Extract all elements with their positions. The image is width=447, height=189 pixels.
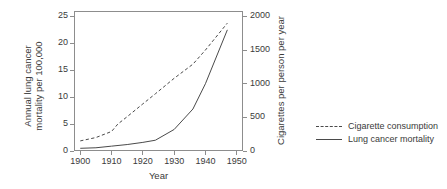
y-tick-mark-right <box>243 16 247 17</box>
series-line-lung-cancer-mortality <box>80 30 227 148</box>
x-tick-mark <box>236 151 237 155</box>
y-tick-mark-left <box>70 43 74 44</box>
legend-item-cigarette-consumption: Cigarette consumption <box>316 120 446 133</box>
y-axis-title-left-line2: mortality per 100,000 <box>33 16 44 156</box>
chart-legend: Cigarette consumption Lung cancer mortal… <box>316 120 446 146</box>
legend-swatch-solid-icon <box>316 139 342 141</box>
y-tick-label-left: 5 <box>63 119 68 128</box>
legend-label-lung-cancer-mortality: Lung cancer mortality <box>348 134 434 145</box>
series-line-cigarette-consumption <box>80 23 227 141</box>
y-tick-mark-right <box>243 83 247 84</box>
y-tick-label-right: 1500 <box>250 45 270 54</box>
y-tick-label-left: 0 <box>63 146 68 155</box>
y-tick-mark-right <box>243 50 247 51</box>
x-tick-label: 1950 <box>217 157 257 166</box>
x-tick-mark <box>174 151 175 155</box>
y-tick-label-left: 10 <box>58 92 68 101</box>
y-tick-label-left: 25 <box>58 11 68 20</box>
y-tick-label-right: 0 <box>250 146 255 155</box>
chart-figure: 0510152025050010001500200019001910192019… <box>0 0 447 189</box>
y-tick-mark-left <box>70 124 74 125</box>
x-tick-mark <box>111 151 112 155</box>
y-tick-mark-right <box>243 151 247 152</box>
series-layer <box>74 11 243 151</box>
y-tick-mark-left <box>70 16 74 17</box>
x-tick-mark <box>142 151 143 155</box>
x-axis-title: Year <box>74 170 243 181</box>
y-axis-title-left: Annual lung cancer mortality per 100,000 <box>22 16 44 156</box>
x-tick-mark <box>80 151 81 155</box>
y-axis-title-right: Cigarettes per person per year <box>275 11 286 151</box>
legend-item-lung-cancer-mortality: Lung cancer mortality <box>316 133 446 146</box>
y-tick-label-left: 20 <box>58 38 68 47</box>
y-tick-mark-left <box>70 70 74 71</box>
legend-swatch-dashed-icon <box>316 126 342 128</box>
y-tick-mark-right <box>243 117 247 118</box>
y-tick-label-right: 500 <box>250 112 265 121</box>
y-tick-label-right: 2000 <box>250 11 270 20</box>
y-tick-label-right: 1000 <box>250 79 270 88</box>
x-tick-mark <box>205 151 206 155</box>
y-axis-title-left-line1: Annual lung cancer <box>22 16 33 156</box>
y-tick-mark-left <box>70 151 74 152</box>
y-tick-label-left: 15 <box>58 65 68 74</box>
y-tick-mark-left <box>70 97 74 98</box>
legend-label-cigarette-consumption: Cigarette consumption <box>348 121 438 132</box>
